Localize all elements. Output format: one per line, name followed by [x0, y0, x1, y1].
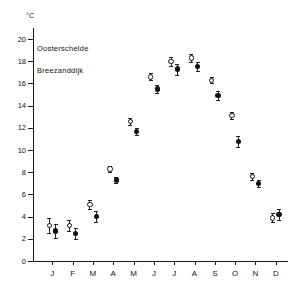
- x-axis-tick-label: N: [248, 269, 262, 278]
- marker-open-circle: [148, 74, 153, 79]
- y-axis-tick: [28, 106, 33, 107]
- marker-open-circle: [209, 78, 214, 83]
- marker-filled-circle: [256, 181, 261, 186]
- marker-filled-circle: [276, 212, 281, 217]
- y-axis-tick-label: 10: [8, 147, 26, 155]
- x-axis-tick: [195, 261, 196, 265]
- error-bar-cap-bottom: [149, 80, 153, 81]
- error-bar-cap-bottom: [67, 231, 71, 232]
- x-axis-tick: [93, 261, 94, 265]
- y-axis-tick: [28, 239, 33, 240]
- error-bar-cap-top: [271, 213, 275, 214]
- marker-open-circle: [67, 223, 72, 228]
- error-bar-cap-bottom: [230, 119, 234, 120]
- error-bar-cap-bottom: [54, 238, 58, 239]
- marker-filled-circle: [114, 177, 119, 182]
- y-axis-tick: [28, 61, 33, 62]
- error-bar-cap-top: [196, 62, 200, 63]
- marker-open-circle: [47, 223, 52, 228]
- error-bar-cap-top: [277, 209, 281, 210]
- x-axis-tick: [215, 261, 216, 265]
- error-bar-cap-bottom: [88, 209, 92, 210]
- marker-open-circle: [168, 59, 173, 64]
- error-bar-cap-top: [47, 218, 51, 219]
- error-bar-cap-bottom: [216, 100, 220, 101]
- y-axis-tick: [28, 172, 33, 173]
- y-axis-line: [33, 28, 34, 262]
- y-axis-tick-label: 20: [8, 36, 26, 44]
- x-axis-tick: [276, 261, 277, 265]
- y-axis-tick-label: 16: [8, 80, 26, 88]
- y-axis-tick-label: 4: [8, 213, 26, 221]
- x-axis-tick-label: S: [208, 269, 222, 278]
- y-axis-tick-label: 6: [8, 191, 26, 199]
- y-axis-tick: [28, 128, 33, 129]
- y-axis-tick-label: 18: [8, 58, 26, 66]
- error-bar-cap-bottom: [128, 125, 132, 126]
- marker-open-circle: [107, 166, 112, 171]
- x-axis-tick-label: J: [147, 269, 161, 278]
- x-axis-tick-label: O: [228, 269, 242, 278]
- y-axis-tick: [28, 217, 33, 218]
- marker-filled-circle: [94, 214, 99, 219]
- marker-open-circle: [189, 55, 194, 60]
- y-axis-tick-label: 12: [8, 124, 26, 132]
- error-bar-cap-top: [88, 200, 92, 201]
- marker-filled-circle: [73, 231, 78, 236]
- marker-open-circle: [270, 215, 275, 220]
- error-bar-cap-bottom: [114, 183, 118, 184]
- marker-open-circle: [229, 113, 234, 118]
- error-bar-cap-top: [236, 136, 240, 137]
- error-bar-cap-bottom: [169, 66, 173, 67]
- error-bar-cap-bottom: [210, 83, 214, 84]
- y-axis-tick-label: 0: [8, 258, 26, 266]
- error-bar-cap-top: [175, 64, 179, 65]
- x-axis-tick: [154, 261, 155, 265]
- x-axis-tick: [255, 261, 256, 265]
- y-axis-tick: [28, 194, 33, 195]
- y-axis-unit-label: °C: [26, 12, 34, 19]
- error-bar-cap-bottom: [257, 187, 261, 188]
- x-axis-tick-label: M: [86, 269, 100, 278]
- x-axis-tick-label: J: [45, 269, 59, 278]
- legend-entry-breezanddijk: Breezanddijk: [37, 67, 83, 75]
- error-bar-cap-bottom: [250, 180, 254, 181]
- marker-filled-circle: [134, 129, 139, 134]
- x-axis-tick-label: M: [127, 269, 141, 278]
- marker-open-circle: [250, 174, 255, 179]
- error-bar-cap-top: [189, 54, 193, 55]
- marker-open-circle: [128, 119, 133, 124]
- y-axis-tick: [28, 261, 33, 262]
- marker-filled-circle: [195, 64, 200, 69]
- error-bar-cap-bottom: [108, 172, 112, 173]
- error-bar-cap-bottom: [236, 147, 240, 148]
- error-bar-cap-top: [94, 211, 98, 212]
- error-bar-cap-top: [155, 85, 159, 86]
- marker-filled-circle: [215, 93, 220, 98]
- marker-filled-circle: [53, 228, 58, 233]
- error-bar-cap-bottom: [175, 75, 179, 76]
- y-axis-tick: [28, 150, 33, 151]
- x-axis-tick: [113, 261, 114, 265]
- marker-filled-circle: [155, 86, 160, 91]
- error-bar-cap-bottom: [155, 93, 159, 94]
- marker-filled-circle: [175, 66, 180, 71]
- x-axis-tick-label: F: [66, 269, 80, 278]
- y-axis-tick-label: 8: [8, 169, 26, 177]
- marker-filled-circle: [236, 139, 241, 144]
- error-bar-cap-bottom: [196, 71, 200, 72]
- x-axis-tick-label: D: [269, 269, 283, 278]
- error-bar-cap-top: [74, 228, 78, 229]
- error-bar-cap-bottom: [271, 222, 275, 223]
- x-axis-tick: [235, 261, 236, 265]
- error-bar-cap-bottom: [47, 233, 51, 234]
- y-axis-tick: [28, 83, 33, 84]
- error-bar-cap-top: [169, 57, 173, 58]
- x-axis-tick-label: J: [167, 269, 181, 278]
- x-axis-tick: [134, 261, 135, 265]
- x-axis-tick: [174, 261, 175, 265]
- error-bar-cap-top: [67, 220, 71, 221]
- y-axis-tick-label: 14: [8, 102, 26, 110]
- error-bar-cap-bottom: [135, 135, 139, 136]
- error-bar-cap-bottom: [189, 62, 193, 63]
